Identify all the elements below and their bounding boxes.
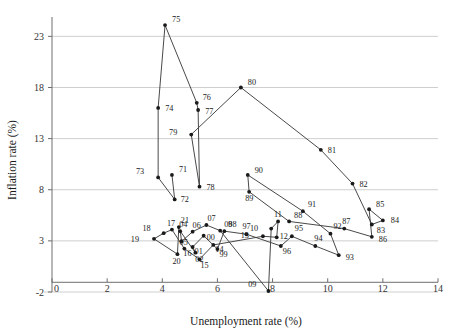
data-point-marker — [196, 108, 200, 112]
data-point-marker — [202, 234, 206, 238]
data-point-marker — [329, 232, 333, 236]
data-point-label: 75 — [172, 15, 180, 24]
data-point-label: 94 — [314, 234, 322, 243]
x-tick-label: 14 — [433, 283, 443, 294]
data-point-label: 13 — [241, 231, 249, 240]
data-point-marker — [367, 207, 371, 211]
data-point-label: 07 — [207, 214, 215, 223]
data-point-marker — [218, 229, 222, 233]
y-tick-label: 23 — [34, 31, 44, 42]
data-point-label: 15 — [201, 261, 209, 270]
y-tick-label: 13 — [34, 133, 44, 144]
data-point-label: 09 — [248, 280, 256, 289]
data-point-marker — [267, 289, 271, 293]
data-point-label: 90 — [255, 166, 263, 175]
data-point-marker — [195, 101, 199, 105]
data-point-label: 08 — [224, 220, 232, 229]
data-point-label: 96 — [283, 247, 291, 256]
data-point-label: 85 — [376, 200, 384, 209]
data-point-marker — [222, 229, 226, 233]
data-point-label: 76 — [203, 93, 211, 102]
data-point-marker — [319, 148, 323, 152]
data-point-label: 17 — [167, 219, 175, 228]
x-tick-label: 6 — [215, 283, 220, 294]
data-point-label: 78 — [207, 183, 215, 192]
data-point-label: 89 — [245, 194, 253, 203]
y-tick-label: -2 — [36, 287, 44, 298]
y-axis-ticks: -238131823 — [34, 31, 52, 298]
data-point-label: 73 — [136, 167, 144, 176]
data-point-label: 72 — [181, 195, 189, 204]
x-tick-label: 8 — [270, 283, 275, 294]
data-point-label: 92 — [333, 222, 341, 231]
data-point-label: 86 — [379, 235, 387, 244]
chart-canvas: 02468101214 -238131823 71727374757677787… — [0, 0, 461, 332]
data-point-label: 77 — [205, 107, 213, 116]
y-tick-label: 3 — [39, 235, 44, 246]
data-point-label: 18 — [142, 224, 150, 233]
x-tick-label: 2 — [105, 283, 110, 294]
data-point-marker — [290, 234, 294, 238]
data-point-marker — [170, 228, 174, 232]
data-point-label: 16 — [183, 249, 191, 258]
data-point-marker — [176, 252, 180, 256]
data-point-marker — [173, 198, 177, 202]
x-tick-label: 0 — [54, 283, 59, 294]
data-point-marker — [170, 173, 174, 177]
data-point-marker — [275, 235, 279, 239]
data-point-label: 81 — [328, 146, 336, 155]
data-point-marker — [287, 220, 291, 224]
data-point-marker — [239, 86, 243, 90]
data-point-marker — [261, 234, 265, 238]
data-point-marker — [342, 227, 346, 231]
x-tick-label: 10 — [323, 283, 333, 294]
phillips-curve-chart: 02468101214 -238131823 71727374757677787… — [0, 0, 461, 332]
data-point-label: 79 — [169, 128, 177, 137]
data-point-label: 83 — [377, 226, 385, 235]
x-axis-title: Unemployment rate (%) — [190, 315, 302, 328]
data-point-marker — [156, 106, 160, 110]
series-point-labels: 7172737475767778798081828384858687888990… — [131, 15, 399, 289]
data-point-label: 71 — [179, 165, 187, 174]
data-point-marker — [269, 227, 273, 231]
data-point-label: 05 — [180, 238, 188, 247]
data-point-label: 14 — [215, 245, 223, 254]
x-tick-label: 12 — [378, 283, 388, 294]
data-point-label: 06 — [193, 221, 201, 230]
y-tick-label: 8 — [39, 184, 44, 195]
data-point-label: 80 — [248, 78, 256, 87]
data-point-label: 11 — [274, 210, 282, 219]
data-point-marker — [156, 176, 160, 180]
data-point-label: 00 — [207, 233, 215, 242]
data-point-marker — [191, 230, 195, 234]
data-point-label: 91 — [308, 200, 316, 209]
data-point-marker — [337, 253, 341, 257]
data-point-marker — [370, 223, 374, 227]
data-point-label: 10 — [250, 224, 258, 233]
data-point-marker — [381, 219, 385, 223]
data-point-marker — [162, 231, 166, 235]
data-point-marker — [276, 220, 280, 224]
data-point-marker — [152, 237, 156, 241]
data-point-marker — [205, 223, 209, 227]
gridlines-group — [44, 36, 438, 292]
y-axis-title: Inflation rate (%) — [6, 120, 19, 200]
axes-group — [52, 17, 438, 292]
data-point-marker — [246, 173, 250, 177]
data-point-marker — [370, 235, 374, 239]
data-point-label: 20 — [172, 257, 180, 266]
data-point-label: 87 — [342, 217, 350, 226]
data-point-label: 82 — [360, 180, 368, 189]
data-point-label: 84 — [391, 216, 399, 225]
data-point-label: 12 — [280, 232, 288, 241]
data-point-marker — [313, 244, 317, 248]
data-point-label: 21 — [181, 216, 189, 225]
x-tick-label: 4 — [160, 283, 165, 294]
data-point-label: 95 — [295, 224, 303, 233]
data-point-marker — [163, 23, 167, 27]
data-point-marker — [189, 133, 193, 137]
data-point-marker — [198, 185, 202, 189]
data-point-label: 93 — [346, 253, 354, 262]
data-point-label: 88 — [294, 211, 302, 220]
data-point-label: 19 — [131, 235, 139, 244]
